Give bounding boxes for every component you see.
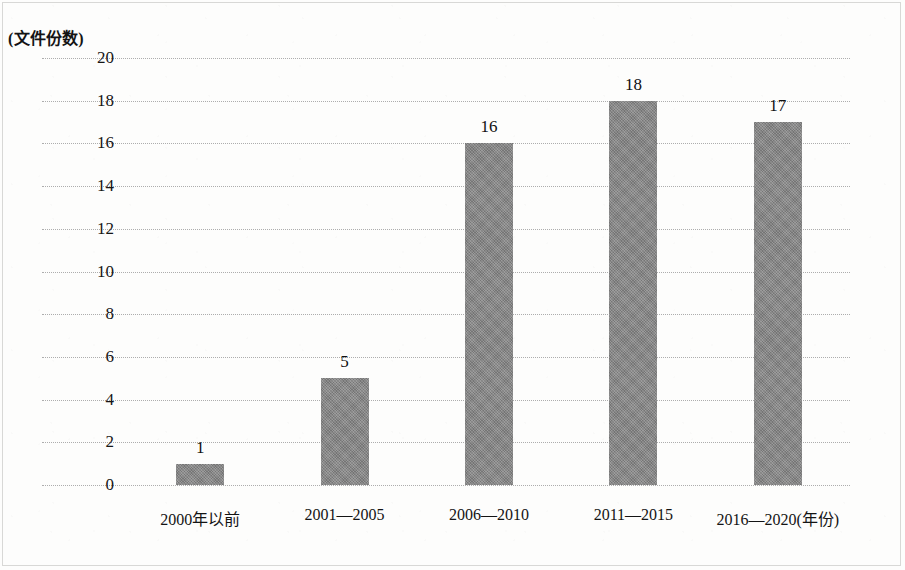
gridline <box>42 58 850 59</box>
y-axis-tick-label: 4 <box>74 389 114 409</box>
gridline <box>42 272 850 273</box>
x-axis-unit-caption: (年份) <box>796 511 839 528</box>
gridline <box>42 186 850 187</box>
x-axis-category-text: 2011—2015 <box>594 506 673 523</box>
gridline <box>42 229 850 230</box>
gridline <box>42 357 850 358</box>
bar <box>465 143 513 485</box>
y-axis-tick-label: 20 <box>74 48 114 68</box>
chart-page: (文件份数) 02468101214161820 15161817 2000年以… <box>0 0 905 570</box>
x-axis-category-text: 2000年以前 <box>160 511 240 528</box>
y-axis-tick-label: 12 <box>74 218 114 238</box>
bar <box>176 464 224 485</box>
bar-value-label: 17 <box>743 96 813 116</box>
x-axis-category-text: 2016—2020 <box>716 511 796 528</box>
bar-value-label: 1 <box>165 438 235 458</box>
x-axis-category-text: 2001—2005 <box>305 506 385 523</box>
gridline <box>42 314 850 315</box>
gridline <box>42 485 850 486</box>
bar <box>609 101 657 485</box>
x-axis-category-text: 2006—2010 <box>449 506 529 523</box>
y-axis-tick-label: 2 <box>74 432 114 452</box>
gridline <box>42 442 850 443</box>
y-axis-tick-label: 0 <box>74 475 114 495</box>
bar <box>321 378 369 485</box>
plot-area: 02468101214161820 15161817 2000年以前2001—2… <box>128 58 850 485</box>
bar <box>754 122 802 485</box>
y-axis-tick-label: 6 <box>74 346 114 366</box>
x-axis-tick-label: 2016—2020(年份) <box>678 506 878 530</box>
y-axis-unit-caption: (文件份数) <box>8 25 84 49</box>
gridline <box>42 101 850 102</box>
y-axis-tick-label: 8 <box>74 304 114 324</box>
bar-value-label: 16 <box>454 117 524 137</box>
y-axis-tick-label: 10 <box>74 261 114 281</box>
bar-value-label: 18 <box>598 75 668 95</box>
y-axis-tick-label: 18 <box>74 90 114 110</box>
y-axis-tick-label: 14 <box>74 176 114 196</box>
y-axis-tick-label: 16 <box>74 133 114 153</box>
gridline <box>42 143 850 144</box>
gridline <box>42 400 850 401</box>
bar-value-label: 5 <box>310 352 380 372</box>
